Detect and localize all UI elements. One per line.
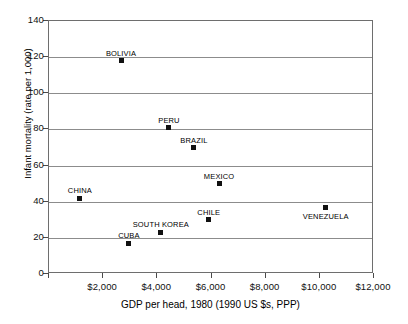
x-axis-title: GDP per head, 1980 (1990 US $s, PPP) <box>48 299 373 311</box>
data-point-marker <box>217 181 222 186</box>
x-tick-label: $12,000 <box>338 281 408 292</box>
x-tick-mark <box>102 273 103 278</box>
y-tick-label: 60 <box>16 160 44 170</box>
y-tick-label: 100 <box>16 87 44 97</box>
y-tick-label: 40 <box>16 196 44 206</box>
data-point-label: MEXICO <box>174 172 264 181</box>
x-tick-mark <box>156 273 157 278</box>
y-tick-label: 80 <box>16 123 44 133</box>
y-tick-label: 140 <box>16 15 44 25</box>
data-point-marker <box>119 58 124 63</box>
y-gridline <box>49 202 372 203</box>
data-point-marker <box>126 241 131 246</box>
y-axis: 020406080100120140 <box>0 0 44 324</box>
y-tick-label: 120 <box>16 51 44 61</box>
y-gridline <box>49 129 372 130</box>
data-point-label: VENEZUELA <box>281 212 371 221</box>
y-gridline <box>49 93 372 94</box>
data-point-label: SOUTH KOREA <box>116 220 206 229</box>
x-tick-mark <box>265 273 266 278</box>
data-point-label: CHINA <box>35 186 125 195</box>
scatter-chart: Infant mortality (rate per 1,000) 020406… <box>0 0 408 324</box>
y-tick-label: 20 <box>16 232 44 242</box>
data-point-marker <box>77 196 82 201</box>
x-tick-mark <box>211 273 212 278</box>
data-point-label: CHILE <box>164 208 254 217</box>
data-point-marker <box>166 125 171 130</box>
data-point-marker <box>191 145 196 150</box>
plot-area: BOLIVIAPERUBRAZILMEXICOCHINAVENEZUELACHI… <box>48 20 373 273</box>
data-point-label: BRAZIL <box>149 136 239 145</box>
x-tick-mark <box>373 273 374 278</box>
data-point-marker <box>206 217 211 222</box>
data-point-label: PERU <box>124 116 214 125</box>
x-tick-mark <box>319 273 320 278</box>
y-tick-label: 0 <box>16 268 44 278</box>
data-point-marker <box>323 205 328 210</box>
x-tick-mark <box>48 273 49 278</box>
y-gridline <box>49 166 372 167</box>
data-point-label: BOLIVIA <box>76 49 166 58</box>
data-point-label: CUBA <box>84 231 174 240</box>
